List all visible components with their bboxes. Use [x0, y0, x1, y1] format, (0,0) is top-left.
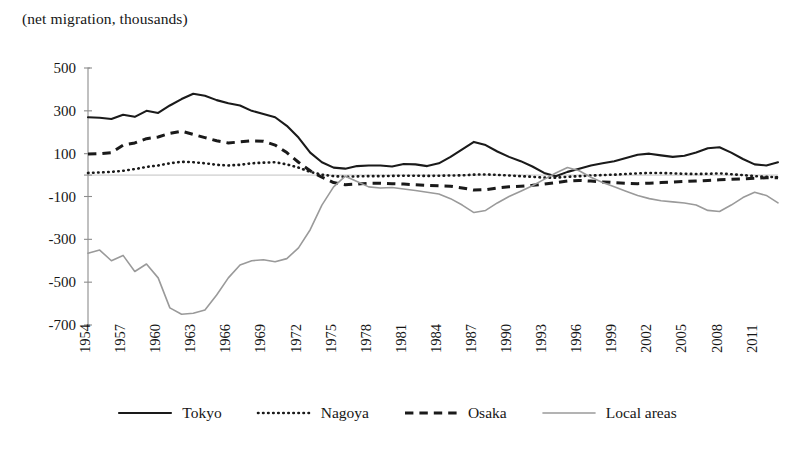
x-tick-label: 1978 [358, 324, 375, 353]
legend-label: Tokyo [182, 404, 221, 422]
x-tick-label: 1999 [603, 324, 620, 353]
legend-label: Local areas [606, 404, 677, 422]
series-line-local-areas [88, 168, 778, 315]
x-tick-label: 1954 [77, 324, 94, 353]
x-tick-label: 1972 [288, 324, 305, 353]
legend-swatch-solid-icon [117, 406, 173, 420]
x-tick-label: 1990 [498, 324, 515, 353]
y-tick-label: -700 [0, 317, 76, 334]
x-tick-label: 1966 [217, 324, 234, 353]
x-tick-label: 2011 [744, 325, 761, 353]
migration-chart: (net migration, thousands) 500300100-100… [0, 0, 794, 451]
x-tick-label: 2005 [673, 324, 690, 353]
x-tick-label: 2008 [709, 324, 726, 353]
x-tick-label: 1960 [147, 324, 164, 353]
chart-legend: TokyoNagoyaOsakaLocal areas [0, 404, 794, 422]
y-tick-label: -300 [0, 231, 76, 248]
plot-area [0, 0, 794, 451]
x-tick-label: 1984 [428, 324, 445, 353]
legend-label: Osaka [468, 404, 507, 422]
x-tick-label: 2002 [638, 324, 655, 353]
y-tick-label: 500 [0, 60, 76, 77]
legend-swatch-thin-solid-icon [541, 406, 597, 420]
y-tick-label: -500 [0, 274, 76, 291]
legend-item-tokyo[interactable]: Tokyo [117, 404, 221, 422]
legend-item-local-areas[interactable]: Local areas [541, 404, 677, 422]
x-tick-label: 1993 [533, 324, 550, 353]
x-tick-label: 1975 [323, 324, 340, 353]
x-tick-label: 1996 [568, 324, 585, 353]
legend-item-nagoya[interactable]: Nagoya [256, 404, 369, 422]
x-tick-label: 1969 [252, 324, 269, 353]
legend-swatch-dotted-icon [256, 406, 312, 420]
x-tick-label: 1963 [182, 324, 199, 353]
y-tick-label: -100 [0, 188, 76, 205]
legend-label: Nagoya [321, 404, 369, 422]
legend-swatch-dashed-icon [403, 406, 459, 420]
x-tick-label: 1957 [112, 324, 129, 353]
legend-item-osaka[interactable]: Osaka [403, 404, 507, 422]
x-tick-label: 1987 [463, 324, 480, 353]
x-tick-label: 1981 [393, 324, 410, 353]
y-tick-label: 300 [0, 102, 76, 119]
series-line-osaka [88, 131, 778, 190]
y-tick-label: 100 [0, 145, 76, 162]
